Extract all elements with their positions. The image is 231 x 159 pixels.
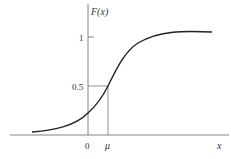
cdf-curve [32, 31, 212, 132]
y-axis-label: F(x) [90, 6, 109, 18]
x-axis-label: x [216, 140, 222, 151]
tick-label-one: 1 [79, 33, 84, 43]
tick-label-mu: μ [104, 140, 110, 151]
tick-label-zero: 0 [85, 141, 90, 151]
cdf-chart: F(x) 1 0.5 0 μ x [0, 0, 231, 159]
tick-label-half: 0.5 [72, 82, 84, 92]
